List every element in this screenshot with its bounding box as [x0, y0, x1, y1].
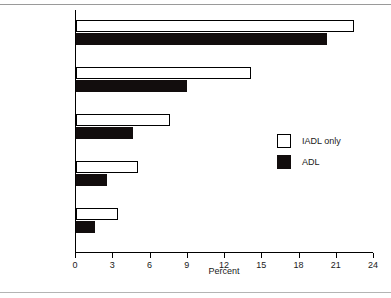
x-tick-12	[224, 253, 225, 258]
bar-iadl-only-45–64	[76, 208, 118, 220]
bar-adl-70–74	[76, 127, 133, 139]
x-tick-18	[299, 253, 300, 258]
legend-item-adl: ADL	[277, 155, 320, 169]
bar-adl-75–84	[76, 80, 187, 92]
x-tick-15	[261, 253, 262, 258]
bar-iadl-only-75–84	[76, 67, 251, 79]
x-tick-label-21: 21	[331, 260, 341, 270]
x-tick-9	[187, 253, 188, 258]
chart-figure: Age Group Percent 03691215182124 85+75–8…	[0, 0, 391, 298]
x-tick-label-24: 24	[368, 260, 378, 270]
x-tick-label-15: 15	[256, 260, 266, 270]
x-tick-24	[373, 253, 374, 258]
page-rule-top	[0, 4, 391, 5]
plot-area: 03691215182124 85+75–8470–7465–6945–64	[75, 10, 373, 253]
bar-adl-65–69	[76, 174, 107, 186]
legend-swatch-adl-icon	[277, 155, 291, 169]
x-tick-3	[112, 253, 113, 258]
page-rule-bottom	[0, 292, 391, 293]
bar-adl-45–64	[76, 221, 95, 233]
x-tick-label-18: 18	[293, 260, 303, 270]
x-tick-label-0: 0	[72, 260, 77, 270]
legend-label-adl: ADL	[302, 157, 320, 167]
bar-adl-85+	[76, 33, 327, 45]
x-tick-6	[150, 253, 151, 258]
bar-iadl-only-65–69	[76, 161, 138, 173]
x-tick-label-3: 3	[110, 260, 115, 270]
legend-swatch-iadl-icon	[277, 134, 291, 148]
x-tick-label-9: 9	[184, 260, 189, 270]
x-tick-0	[75, 253, 76, 258]
x-tick-label-6: 6	[147, 260, 152, 270]
legend-item-iadl: IADL only	[277, 134, 341, 148]
bar-iadl-only-70–74	[76, 114, 170, 126]
x-tick-21	[336, 253, 337, 258]
legend-label-iadl: IADL only	[302, 136, 341, 146]
x-tick-label-12: 12	[219, 260, 229, 270]
bar-iadl-only-85+	[76, 20, 354, 32]
